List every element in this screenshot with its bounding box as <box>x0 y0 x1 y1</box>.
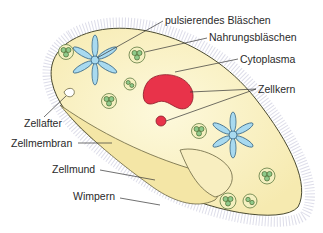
label-cytoplasma: Cytoplasma <box>240 53 295 65</box>
label-zellkern: Zellkern <box>258 83 295 95</box>
label-zellmembran: Zellmembran <box>11 137 72 149</box>
label-pulsierendes-blaeschen: pulsierendes Bläschen <box>165 14 271 26</box>
label-wimpern: Wimpern <box>73 190 115 202</box>
label-zellmund: Zellmund <box>52 163 95 175</box>
micronucleus <box>156 116 166 126</box>
label-zellafter: Zellafter <box>24 117 62 129</box>
label-nahrungsblaeschen: Nahrungsbläschen <box>209 31 297 43</box>
